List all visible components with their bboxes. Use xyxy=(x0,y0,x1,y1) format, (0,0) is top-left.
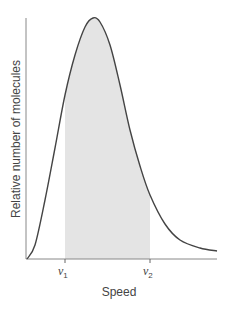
x-axis-label: Speed xyxy=(0,285,232,299)
tick-label-v2: v2 xyxy=(143,264,153,280)
speed-distribution-chart xyxy=(0,0,232,314)
shaded-region-v1-v2 xyxy=(65,18,150,259)
tick-label-v1: v1 xyxy=(58,264,68,280)
